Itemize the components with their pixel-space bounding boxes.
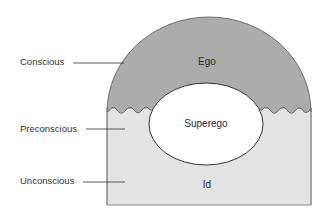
psyche-diagram [0, 0, 326, 219]
conscious-label: Conscious [20, 57, 64, 67]
ego-label: Ego [198, 57, 216, 67]
id-label: Id [203, 180, 211, 190]
unconscious-label: Unconscious [20, 176, 74, 186]
superego-label: Superego [184, 119, 227, 129]
preconscious-label: Preconscious [20, 124, 77, 134]
